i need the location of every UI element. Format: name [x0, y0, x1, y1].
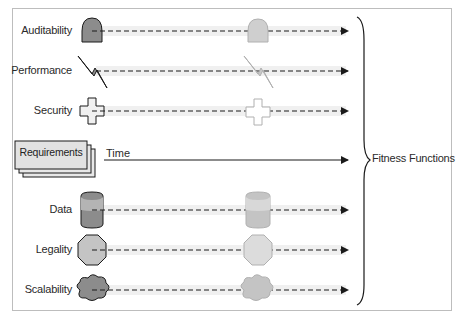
faded-octagon-icon [244, 235, 272, 265]
label-scalability: Scalability [2, 283, 72, 295]
requirements-label: Requirements [15, 146, 87, 158]
label-auditability: Auditability [2, 24, 72, 36]
label-performance: Performance [2, 64, 72, 76]
time-label: Time [106, 147, 130, 159]
faded-cloud-icon [241, 275, 273, 301]
cloud-icon [77, 275, 109, 301]
fitness-functions-label: Fitness Functions [372, 152, 455, 164]
curly-brace [357, 17, 370, 305]
faded-cross-icon [246, 99, 270, 125]
label-security: Security [2, 104, 72, 116]
label-data: Data [2, 203, 72, 215]
faded-dome-icon [248, 19, 268, 42]
dome-icon [82, 18, 102, 42]
label-legality: Legality [2, 243, 72, 255]
